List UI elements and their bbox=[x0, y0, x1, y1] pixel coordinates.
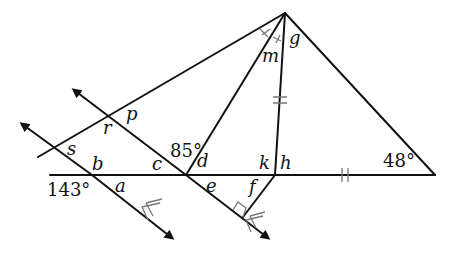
label-m: m bbox=[262, 45, 279, 66]
label-r: r bbox=[103, 117, 113, 138]
label-a: a bbox=[115, 175, 126, 196]
angle-tick-right bbox=[273, 35, 281, 43]
label-p: p bbox=[126, 103, 138, 124]
cevian-apex-to-h bbox=[275, 13, 285, 175]
label-c: c bbox=[152, 153, 162, 174]
angle-48-label: 48° bbox=[383, 150, 415, 171]
label-f: f bbox=[247, 176, 259, 197]
diagram-svg: 143° 85° 48° a b c d e f g h k m p r s bbox=[0, 0, 463, 256]
geometry-diagram: 143° 85° 48° a b c d e f g h k m p r s bbox=[0, 0, 463, 256]
transversal-left-lower bbox=[92, 175, 172, 238]
angle-143-label: 143° bbox=[47, 179, 90, 200]
label-k: k bbox=[259, 152, 270, 173]
label-d: d bbox=[197, 150, 209, 171]
parallel-chevron-left-b bbox=[142, 199, 162, 207]
label-b: b bbox=[92, 153, 104, 174]
label-e: e bbox=[206, 175, 217, 196]
right-angle-mark bbox=[233, 202, 246, 217]
parallel-chevron-right-b bbox=[246, 212, 265, 220]
angle-tick-left bbox=[260, 29, 270, 37]
transversal-right-lower bbox=[186, 175, 268, 238]
triangle-left-side bbox=[38, 13, 285, 157]
perpendicular-segment bbox=[243, 175, 275, 217]
label-h: h bbox=[280, 152, 292, 173]
label-g: g bbox=[289, 27, 301, 48]
label-s: s bbox=[67, 138, 76, 159]
